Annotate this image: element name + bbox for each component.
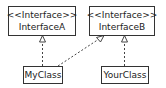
interface-a-name: InterfaceA [19,21,65,33]
yourclass-box: YourClass [101,66,149,84]
myclass-name: MyClass [25,70,62,81]
myclass-to-interfaceb-line [58,39,99,66]
yourclass-name: YourClass [104,70,147,81]
realization-arrowhead-icon [97,36,105,43]
interface-b-stereotype: <<Interface>> [87,9,157,21]
realization-arrowhead-icon [40,36,46,43]
myclass-box: MyClass [23,66,63,84]
interface-b-box: <<Interface>> InterfaceB [89,6,155,36]
interface-a-stereotype: <<Interface>> [7,9,77,21]
interface-a-box: <<Interface>> InterfaceA [8,6,76,36]
realization-arrowhead-icon [122,36,128,43]
interface-b-name: InterfaceB [99,21,145,33]
